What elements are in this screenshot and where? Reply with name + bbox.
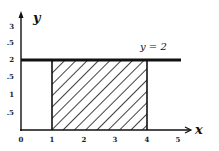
x-tick-labels: 0 1 2 3 4 5 [19,135,181,144]
x-tick-1: 1 [50,135,55,144]
y-axis [19,11,24,131]
y-axis-label: y [32,10,42,25]
x-tick-0: 0 [19,135,24,144]
y-tick-3: 3 [9,22,14,31]
y-axis-arrow-icon [19,11,24,18]
x-tick-2: 2 [82,135,87,144]
y-tick-1.5: .5 [7,72,14,81]
x-axis-label: x [194,122,203,137]
region-diagram: y x y = 2 .5 1 .5 2 .5 3 0 1 2 3 4 5 [0,0,219,151]
x-tick-5: 5 [176,135,181,144]
y-tick-2: 2 [9,55,14,64]
line-label: y = 2 [139,41,167,52]
y-tick-labels: .5 1 .5 2 .5 3 [7,22,14,117]
y-tick-2.5: .5 [7,38,14,47]
x-tick-4: 4 [145,135,150,144]
y-tick-0.5: .5 [7,108,14,117]
y-tick-1: 1 [9,90,14,99]
x-tick-3: 3 [113,135,118,144]
shaded-region [52,60,147,130]
